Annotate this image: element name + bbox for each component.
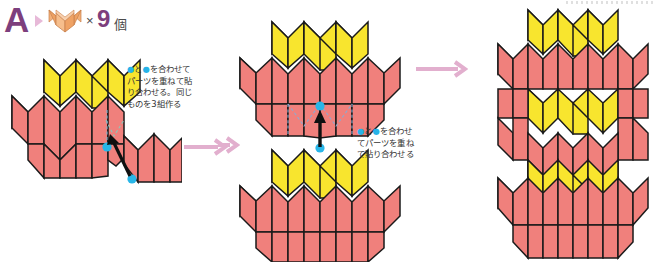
- triangle-right-icon: [35, 15, 43, 27]
- marker-dot-glyph: ●: [357, 126, 364, 136]
- flow-arrow-2: [416, 60, 468, 78]
- marker-dot: [315, 101, 324, 110]
- step-3-result-diagram: [490, 0, 656, 263]
- instruction-sheet: A × 9 個: [0, 0, 656, 263]
- callout-step-2-text: を合わせてパーツを重ねて貼り合わせる: [357, 126, 414, 159]
- marker-dot-glyph: ●: [373, 126, 380, 136]
- unit-count: 9: [97, 7, 110, 31]
- step-letter: A: [4, 2, 29, 37]
- multiply-sign: ×: [86, 13, 94, 28]
- marker-dot-glyph: ●: [143, 64, 150, 74]
- marker-dot-glyph: ●: [127, 64, 134, 74]
- callout-step-1: ●と●を合わせてパーツを重ねて貼り合わせる。同じものを3組作る: [127, 64, 193, 110]
- origami-unit-orange-icon: [48, 8, 82, 34]
- step-header: A × 9 個: [0, 2, 210, 42]
- counter-suffix: 個: [114, 14, 127, 33]
- callout-step-2: ●と●を合わせてパーツを重ねて貼り合わせる: [357, 126, 419, 161]
- callout-step-1-text: を合わせてパーツを重ねて貼り合わせる。同じものを3組作る: [127, 64, 192, 109]
